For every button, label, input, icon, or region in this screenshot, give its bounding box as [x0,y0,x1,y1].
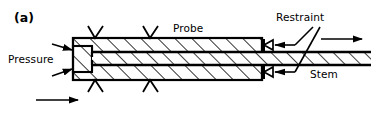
restraint-leader-upper-tail [295,27,313,45]
stem-label: Stem [310,68,338,80]
panel-label: (a) [14,10,34,25]
pressure-label: Pressure [8,53,54,65]
restraint-symbol-upper [264,39,273,51]
probe-upper-wall [73,38,262,52]
probe-lower-wall [73,65,262,80]
stem-rod [92,52,371,65]
pressure-arrow-group [52,44,72,76]
restraint-label: Restraint [276,11,324,23]
schematic-canvas: (a) Pressure Probe Restraint Stem [0,0,377,113]
probe-left-head [73,46,92,72]
stem-fill [92,52,371,65]
figure-panel-a: (a) Pressure Probe Restraint Stem [0,0,377,113]
support-chevron-bottom-2 [143,80,158,92]
pressure-arrow-upper [52,44,72,50]
support-chevron-bottom-1 [88,80,103,92]
pressure-arrow-lower [52,69,72,76]
probe-label: Probe [173,22,203,34]
support-chevron-top-1 [88,26,103,38]
support-chevron-top-2 [143,26,158,38]
restraint-symbol-lower [264,66,273,79]
